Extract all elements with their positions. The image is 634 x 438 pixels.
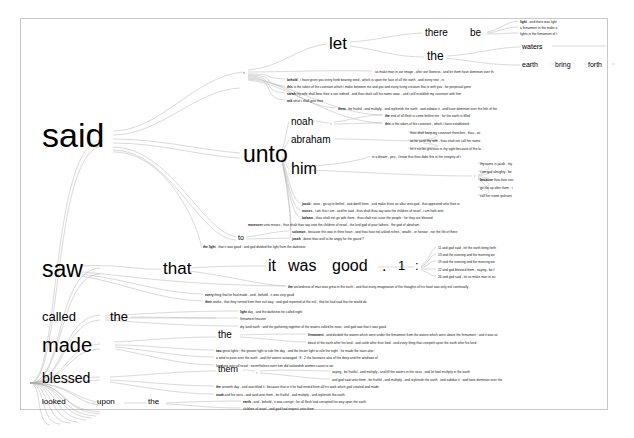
- leaf-phrase[interactable]: moreover unto moses , thus shalt thou sa…: [248, 224, 421, 227]
- node-abraham[interactable]: abraham: [291, 135, 330, 145]
- node-there[interactable]: there: [425, 28, 448, 38]
- node-comma-after-noah[interactable]: ,: [330, 120, 331, 125]
- leaf-phrase[interactable]: because thou hast sou: [480, 179, 513, 182]
- node-verse-number-1[interactable]: 1: [398, 259, 405, 272]
- node-the-after-let[interactable]: the: [427, 50, 444, 62]
- leaf-phrase[interactable]: i am god almighty : be: [480, 171, 512, 174]
- word-tree-canvas: said , let there be the waters earth bri…: [0, 0, 634, 438]
- node-the-after-called[interactable]: the: [110, 310, 128, 323]
- leaf-phrase[interactable]: dry land earth ; and the gathering toget…: [240, 326, 386, 329]
- leaf-phrase[interactable]: a wind to pass over the earth , and the …: [216, 357, 378, 360]
- leaf-phrase-text: a wind to pass over the earth , and the …: [216, 356, 378, 360]
- node-period[interactable]: .: [382, 258, 386, 274]
- leaf-phrase[interactable]: thou shalt keep my covenant therefore , …: [410, 132, 480, 135]
- leaf-phrase[interactable]: beast of the earth after his kind , and …: [308, 342, 478, 345]
- leaf-phrase[interactable]: a firmament in the midst o: [520, 27, 557, 30]
- leaf-phrase[interactable]: 19 and the evening and the morning we: [438, 261, 495, 264]
- leaf-phrase[interactable]: moses , i am that i am . and he said , t…: [302, 210, 444, 213]
- leaf-phrase-text: in a dream , yea , i know that thou dids…: [372, 155, 461, 159]
- node-comma-after-him[interactable]: ,: [474, 172, 475, 177]
- leaf-phrase[interactable]: jacob , arise , go up to bethel , and dw…: [302, 203, 459, 206]
- leaf-phrase[interactable]: this is the token of the covenant , whic…: [385, 123, 469, 126]
- node-said[interactable]: said: [42, 118, 104, 152]
- node-waters[interactable]: waters: [522, 43, 543, 50]
- node-that[interactable]: that: [163, 260, 191, 277]
- leaf-phrase-text: thy name is jacob . thy: [480, 162, 512, 166]
- leaf-phrase[interactable]: light day , and the darkness he called n…: [240, 311, 302, 314]
- leaf-phrase[interactable]: us make man in our image , after our lik…: [375, 71, 494, 74]
- leaf-phrase[interactable]: this is the token of the covenant which …: [287, 86, 471, 89]
- leaf-phrase-keyword: behold: [287, 78, 298, 82]
- leaf-phrase[interactable]: saying , be fruitful , and multiply , an…: [332, 371, 470, 374]
- leaf-phrase[interactable]: 13 and the evening and the morning we: [438, 254, 495, 257]
- leaf-phrase[interactable]: firmament , and divided the waters which…: [308, 334, 498, 337]
- node-blessed[interactable]: blessed: [42, 371, 90, 385]
- leaf-phrase[interactable]: him king over all israel : nevertheless …: [216, 365, 333, 368]
- leaf-phrase[interactable]: earth , and , behold , it was corrupt ; …: [243, 401, 366, 404]
- leaf-phrase-text: is the token of the covenant , which i h…: [391, 122, 469, 126]
- leaf-phrase[interactable]: the light , that it was good : and god d…: [203, 246, 305, 249]
- leaf-phrase[interactable]: solomon , because this was in thine hear…: [292, 231, 457, 234]
- leaf-phrase[interactable]: them , be fruitful , and multiply , and …: [338, 108, 497, 111]
- leaf-phrase-text: thing that he had made , and , behold , …: [213, 293, 294, 297]
- node-good[interactable]: good: [332, 258, 368, 274]
- leaf-phrase[interactable]: thy name is jacob . thy: [480, 163, 512, 166]
- leaf-phrase-keyword: their: [205, 300, 212, 304]
- leaf-phrase[interactable]: ask what i shall give thee: [287, 100, 323, 103]
- leaf-phrase[interactable]: children of israel , and god had respect…: [243, 408, 314, 411]
- leaf-phrase[interactable]: 22 and god blessed them , saying , be f: [438, 269, 494, 272]
- leaf-phrase[interactable]: in a dream , yea , i know that thou dids…: [372, 156, 461, 159]
- node-him[interactable]: him: [291, 161, 317, 177]
- node-looked[interactable]: looked: [42, 398, 66, 406]
- leaf-phrase[interactable]: noah and his sons , and said unto them ,…: [216, 394, 345, 397]
- leaf-phrase-text: lights in the firmament of t: [520, 32, 557, 36]
- leaf-phrase-keyword: noah: [216, 393, 224, 397]
- node-was[interactable]: was: [288, 258, 316, 274]
- node-be[interactable]: be: [470, 28, 481, 38]
- leaf-phrase-keyword: earth: [243, 400, 251, 404]
- leaf-phrase[interactable]: their works , that they turned from thei…: [205, 301, 367, 304]
- node-it[interactable]: it: [268, 258, 276, 274]
- node-to[interactable]: to: [238, 234, 244, 241]
- leaf-phrase[interactable]: let it not be grievous in thy sight beca…: [410, 148, 481, 151]
- leaf-phrase[interactable]: the seventh day , and sanctified it : be…: [216, 386, 379, 389]
- leaf-phrase-text: end of all flesh is come before me . for…: [390, 114, 470, 118]
- leaf-phrase[interactable]: the end of all flesh is come before me .…: [385, 115, 470, 118]
- node-comma-after-them[interactable]: ,: [256, 369, 257, 374]
- leaf-phrase[interactable]: go not up after them . t: [480, 187, 513, 190]
- leaf-phrase-text: 26 and god said , let us make man in ou: [438, 275, 495, 279]
- node-called[interactable]: called: [42, 310, 76, 323]
- node-saw[interactable]: saw: [42, 258, 83, 281]
- leaf-phrase-text: let it not be grievous in thy sight beca…: [410, 147, 481, 151]
- leaf-phrase-text: him king over all israel : nevertheless …: [216, 364, 333, 368]
- leaf-phrase[interactable]: lights in the firmament of t: [520, 33, 557, 36]
- leaf-phrase[interactable]: and god said unto them , be fruitful , a…: [332, 379, 502, 382]
- leaf-phrase[interactable]: sarah thy wife shall bear thee a son ind…: [287, 93, 461, 96]
- node-unto[interactable]: unto: [243, 143, 288, 166]
- leaf-phrase[interactable]: the wickedness of man was great in the e…: [288, 286, 468, 289]
- leaf-phrase-text: unto moses , thus shalt thou say unto th…: [263, 223, 421, 227]
- leaf-phrase[interactable]: balaam , thou shalt not go with them . t…: [302, 217, 433, 220]
- leaf-phrase[interactable]: as for sarai thy wife , thou shalt not c…: [410, 140, 480, 143]
- leaf-phrase[interactable]: two great lights ; the greater light to …: [216, 350, 375, 353]
- node-bring[interactable]: bring: [555, 61, 571, 68]
- leaf-phrase[interactable]: every thing that he had made , and , beh…: [205, 294, 294, 297]
- node-colon[interactable]: :: [415, 259, 419, 272]
- node-forth[interactable]: forth: [588, 61, 602, 68]
- leaf-phrase[interactable]: 26 and god said , let us make man in ou: [438, 276, 495, 279]
- leaf-phrase[interactable]: call her name ipuharni: [480, 195, 512, 198]
- node-noah[interactable]: noah: [291, 117, 313, 127]
- leaf-phrase[interactable]: firmament heaven: [240, 318, 266, 321]
- node-earth[interactable]: earth: [522, 61, 538, 68]
- leaf-phrase[interactable]: 11 and god said , let the earth bring fo…: [438, 247, 496, 250]
- node-comma-after-said[interactable]: ,: [243, 67, 245, 74]
- node-upon[interactable]: upon: [97, 398, 115, 406]
- leaf-phrase[interactable]: light . and there was light: [520, 21, 557, 24]
- node-made[interactable]: made: [42, 335, 92, 355]
- node-let[interactable]: let: [329, 35, 347, 52]
- leaf-phrase-text: us make man in our image , after our lik…: [375, 70, 494, 74]
- node-the-after-upon[interactable]: the: [148, 398, 159, 406]
- leaf-phrase[interactable]: jonah , doest thou well to be angry for …: [292, 238, 364, 241]
- node-the-after-made[interactable]: the: [218, 330, 232, 340]
- leaf-phrase[interactable]: behold , i have given you every herb bea…: [287, 79, 444, 82]
